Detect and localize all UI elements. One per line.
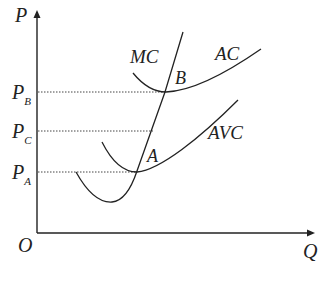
cost-curves-diagram: P Q O PB PC PA MC AC AVC B A — [0, 0, 324, 284]
mc-label: MC — [129, 46, 159, 67]
point-a-label: A — [146, 146, 159, 166]
origin-label: O — [18, 234, 32, 256]
point-b-label: B — [175, 68, 186, 88]
pc-label: PC — [11, 120, 32, 146]
pa-label: PA — [11, 161, 31, 187]
x-axis-label: Q — [303, 240, 318, 262]
y-axis-label: P — [14, 4, 27, 26]
pb-label: PB — [11, 81, 31, 107]
ac-label: AC — [213, 43, 240, 64]
avc-label: AVC — [206, 122, 243, 143]
diagram-canvas: P Q O PB PC PA MC AC AVC B A — [0, 0, 324, 284]
